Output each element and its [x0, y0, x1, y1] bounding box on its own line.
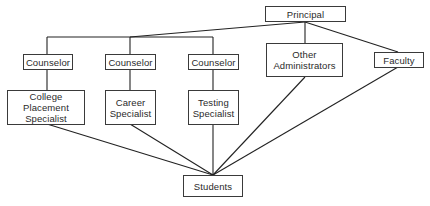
edge-career-students	[130, 124, 213, 175]
node-college-placement-specialist: College Placement Specialist	[7, 90, 85, 125]
node-label: Career Specialist	[110, 97, 152, 119]
node-label: Faculty	[383, 55, 414, 66]
edge-principal-to-bar	[130, 22, 305, 37]
node-counselor-3: Counselor	[188, 54, 239, 70]
node-counselor-1: Counselor	[23, 54, 73, 70]
node-label: Counselor	[26, 57, 70, 68]
node-label: Counselor	[191, 57, 235, 68]
node-label: Principal	[287, 9, 324, 20]
node-students: Students	[183, 175, 243, 197]
node-label: Counselor	[108, 57, 152, 68]
node-other-administrators: Other Administrators	[266, 43, 343, 77]
node-testing-specialist: Testing Specialist	[188, 90, 239, 125]
node-label: Other Administrators	[273, 49, 335, 71]
node-principal: Principal	[265, 6, 346, 22]
node-label: Testing Specialist	[193, 97, 235, 119]
node-label: College Placement Specialist	[8, 91, 84, 124]
node-career-specialist: Career Specialist	[105, 90, 156, 125]
node-label: Students	[194, 181, 232, 192]
node-faculty: Faculty	[374, 52, 424, 68]
node-counselor-2: Counselor	[105, 54, 156, 70]
edge-college-students	[47, 124, 213, 175]
edge-faculty-students	[213, 67, 398, 175]
